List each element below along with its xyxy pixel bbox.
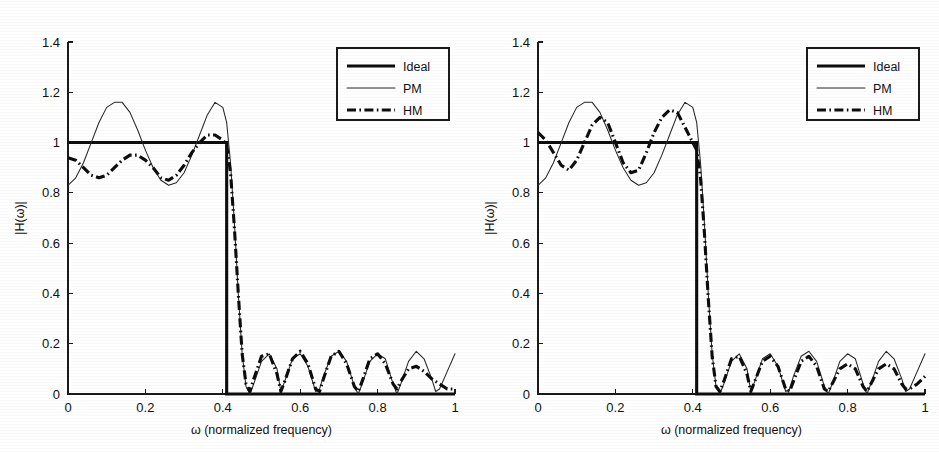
series-line-pm (68, 102, 455, 394)
series-line-hm (68, 135, 455, 391)
y-tick-label: 0.8 (511, 185, 529, 200)
series-line-pm (538, 102, 925, 394)
y-tick-label: 1 (522, 135, 529, 150)
y-tick-label: 1.4 (42, 35, 60, 50)
x-axis-title: ω (normalized frequency) (191, 423, 332, 437)
x-tick-label: 0 (534, 400, 541, 415)
y-tick-label: 0.8 (42, 185, 60, 200)
legend-label-pm: PM (403, 82, 422, 96)
y-tick-label: 0 (53, 387, 60, 402)
x-tick-label: 0.6 (291, 400, 309, 415)
y-tick-label: 0 (522, 387, 529, 402)
y-axis-title: |H(ω)| (13, 201, 27, 235)
x-tick-label: 1 (921, 400, 928, 415)
legend[interactable]: IdealPMHM (807, 48, 919, 120)
legend-label-ideal: Ideal (873, 60, 900, 74)
x-tick-label: 0.2 (606, 400, 624, 415)
x-tick-label: 0.8 (838, 400, 856, 415)
y-tick-label: 1.2 (511, 85, 529, 100)
y-tick-label: 1.4 (511, 35, 529, 50)
y-tick-label: 0.4 (511, 286, 529, 301)
x-axis-title: ω (normalized frequency) (660, 423, 801, 437)
x-tick-label: 0.4 (683, 400, 701, 415)
y-tick-label: 0.2 (511, 336, 529, 351)
legend-label-hm: HM (403, 104, 422, 118)
x-tick-label: 0.4 (214, 400, 232, 415)
chart-panel-left: 00.20.40.60.811.21.400.20.40.60.81ω (nor… (0, 0, 470, 452)
y-tick-label: 0.6 (511, 236, 529, 251)
x-tick-label: 0.6 (761, 400, 779, 415)
y-tick-label: 0.4 (42, 286, 60, 301)
chart-svg-right: 00.20.40.60.811.21.400.20.40.60.81ω (nor… (470, 0, 939, 452)
x-tick-label: 0.8 (369, 400, 387, 415)
x-tick-label: 0.2 (136, 400, 154, 415)
chart-panel-right: 00.20.40.60.811.21.400.20.40.60.81ω (nor… (470, 0, 939, 452)
x-tick-label: 1 (451, 400, 458, 415)
chart-svg-left: 00.20.40.60.811.21.400.20.40.60.81ω (nor… (0, 0, 469, 452)
legend-label-pm: PM (873, 82, 892, 96)
y-tick-label: 1.2 (42, 85, 60, 100)
series-line-hm (538, 110, 925, 392)
legend-label-ideal: Ideal (403, 60, 430, 74)
y-tick-label: 1 (53, 135, 60, 150)
y-axis-title: |H(ω)| (483, 201, 497, 235)
legend[interactable]: IdealPMHM (337, 48, 449, 120)
y-tick-label: 0.2 (42, 336, 60, 351)
legend-label-hm: HM (873, 104, 892, 118)
series-line-ideal (538, 143, 925, 394)
y-tick-label: 0.6 (42, 236, 60, 251)
x-tick-label: 0 (64, 400, 71, 415)
figure-root: 00.20.40.60.811.21.400.20.40.60.81ω (nor… (0, 0, 939, 452)
